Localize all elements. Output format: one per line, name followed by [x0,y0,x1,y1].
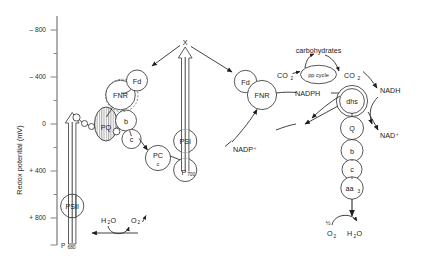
nadh-label: NADH [380,86,400,95]
nad-plus-label-group: NAD⁺ [380,131,399,140]
psi-label: PSI [179,137,191,146]
psii-excitation-arrow [65,113,79,245]
axis-label-plus400: + 400 [29,167,46,174]
chain-to-nad-arc [368,112,378,130]
cytochrome-b-left: b [116,110,137,131]
svg-text:2: 2 [291,76,294,81]
cyt-c-right-label: c [350,165,354,174]
left-return-line [276,124,296,130]
fd-left-label: Fd [133,77,141,86]
carbohydrates-label: carbohydrates [296,46,342,55]
p700-letter: P [182,168,187,177]
p680-axis-sub: 680 [68,245,76,250]
dhs-node: dhs [336,85,367,116]
water-label: H 2 O [101,216,117,226]
psii-label: PSII [65,202,79,211]
aa3-node: aa 3 [341,177,363,199]
svg-text:2: 2 [358,76,361,81]
svg-text:O: O [111,216,117,225]
terminal-oxidase-group: ½ O 2 H 2 O [326,215,363,238]
aa3-label: aa [346,184,354,193]
fd-left: Fd [127,70,148,91]
water-splitting-group: H 2 O O 2 [92,216,146,234]
axis-label-zero: 0 [42,120,46,127]
psi-excitation-arrow [178,47,192,172]
svg-text:2: 2 [138,220,141,225]
svg-text:O: O [357,229,363,238]
pq-small-node [113,128,120,135]
axis-label-minus400: – 400 [29,73,46,80]
co2-right-to-nadh-arc [363,72,377,89]
fd-right-label: Fd [241,78,249,87]
pc-sub-label: c [157,161,160,167]
axis-title: Redox potential (mV) [15,125,24,194]
p700-sub: 700 [187,172,195,177]
qa-node [82,121,88,127]
h2o-left-label: H [101,216,106,225]
co2-right-label: CO [344,71,355,80]
nadp-tail [225,141,232,147]
x-to-fd-left-arrow [152,46,180,67]
h2o-right-label: H [347,229,352,238]
o2-bottom-label: O 2 [327,229,337,239]
h2o-bottom-label: H 2 O [347,229,363,239]
qb-node [89,124,95,130]
x-to-fd-right-arrow [191,47,232,73]
dhs-label: dhs [346,97,358,106]
nadp-to-fnr-arrow [232,110,257,143]
nadp-plus-label-group: NADP⁺ [233,145,257,154]
co2-left-group: CO 2 [277,71,300,81]
svg-text:2: 2 [334,234,337,239]
z-scheme-diagram: – 800 – 400 0 + 400 + 800 Redox potentia… [0,0,426,267]
axis-label-minus800: – 800 [29,26,46,33]
cyt-c-left-label: c [130,135,134,144]
co2-right-group: CO 2 [344,71,361,81]
cyt-b-right: b [341,140,363,162]
pheophytin-node [73,114,80,121]
nadph-label: NADPH [295,89,320,98]
o2-left-label: O [131,216,137,225]
fnr-to-nadph-link [276,92,296,93]
pc-label: PC [153,151,163,160]
pp-cycle-label: pp cycle [308,72,329,78]
q-node: Q [341,117,364,140]
p680-axis-letter: P [61,242,66,249]
cytochrome-c-left: c [122,129,141,148]
fnr-right: FNR [247,80,276,109]
aa3-sub: 3 [358,189,361,194]
nad-plus-label: NAD⁺ [380,131,399,140]
c-to-pc-arrow [139,139,148,151]
o2-right-label: O [327,229,333,238]
oxygen-evolved-label: O 2 [131,216,141,226]
axis-label-plus800: + 800 [29,214,46,221]
x-acceptor-label: X [183,38,188,47]
nadp-plus-label: NADP⁺ [233,145,257,154]
cyt-b-left-label: b [124,117,128,126]
plastocyanin-node: PC c [145,145,170,170]
cyt-b-right-label: b [350,147,354,156]
half-coefficient: ½ [326,220,331,226]
nadh-to-chain-arc [370,97,378,124]
co2-left-label: CO [277,71,288,80]
q-label: Q [349,124,355,133]
pp-cycle-node: pp cycle [301,65,337,83]
psii-node: PSII [61,194,84,217]
fnr-right-label: FNR [255,91,270,100]
p700-node: P 700 [174,158,197,181]
figure-canvas: – 800 – 400 0 + 400 + 800 Redox potentia… [0,0,426,267]
psi-node: PSI [174,129,197,152]
pq-label: PQ [101,123,112,132]
